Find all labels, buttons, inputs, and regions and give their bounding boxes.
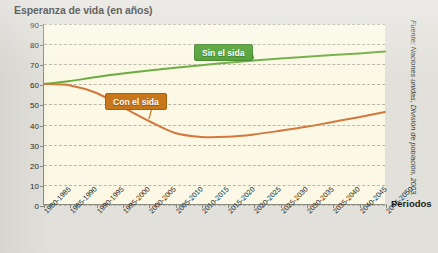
- legend-callout-sin-el-sida: Sin el sida: [194, 44, 253, 61]
- chart-figure: Esperanza de vida (en años) 010203040506…: [0, 0, 438, 253]
- series-line-con-el-sida: [44, 84, 385, 137]
- y-tick-label: 90: [30, 21, 39, 30]
- y-tick-label: 30: [30, 141, 39, 150]
- y-tick-label: 10: [30, 181, 39, 190]
- y-tick-label: 0: [35, 202, 39, 211]
- y-tick-label: 50: [30, 101, 39, 110]
- y-tick-label: 70: [30, 61, 39, 70]
- y-tick-label: 80: [30, 41, 39, 50]
- y-tick-label: 60: [30, 81, 39, 90]
- y-tick-label: 40: [30, 121, 39, 130]
- source-note: Fuente: Naciones unidas, División de pob…: [409, 20, 418, 200]
- chart-title: Esperanza de vida (en años): [14, 4, 153, 16]
- y-tick-label: 20: [30, 161, 39, 170]
- legend-callout-con-el-sida: Con el sida: [105, 93, 167, 110]
